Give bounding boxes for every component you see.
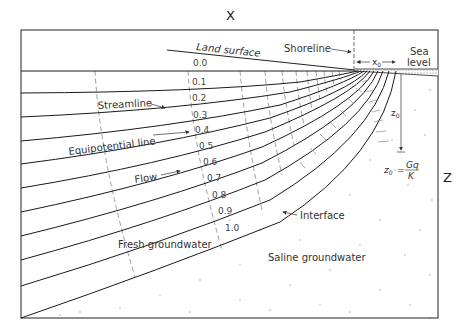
saltwater-interface-diagram: X Z [0, 0, 465, 334]
axis-z-label: Z [443, 170, 452, 185]
stream-value: 0.9 [218, 206, 233, 216]
stream-value: 1.0 [225, 223, 240, 233]
shoreline-arrow [331, 49, 351, 52]
stream-value: 0.4 [195, 125, 210, 135]
streamline-arrow [151, 104, 165, 108]
diagram-frame [21, 30, 438, 318]
interface-arrow [283, 212, 297, 215]
flow-label: Flow [134, 171, 158, 185]
svg-text:Gq: Gq [406, 160, 419, 170]
stream-value: 0.0 [193, 58, 208, 68]
svg-text:z0: z0 [383, 165, 393, 176]
stream-value: 0.6 [203, 157, 218, 167]
level-label: level [407, 57, 431, 68]
shoreline-label: Shoreline [284, 43, 331, 54]
z0-formula: z0 = Gq K [383, 160, 419, 181]
interface-curve [21, 71, 396, 318]
axis-x-label: X [226, 8, 235, 23]
saline-groundwater-label: Saline groundwater [268, 252, 366, 263]
streamlines [21, 71, 396, 318]
stream-value: 0.8 [212, 190, 227, 200]
sea-label: Sea [410, 46, 429, 57]
streamline-values: 0.0 0.1 0.2 0.3 0.4 0.5 0.6 0.7 0.8 0.9 … [192, 58, 240, 233]
stream-value: 0.1 [192, 77, 206, 87]
z0-label: z0 [391, 108, 400, 119]
equipotential-line-label: Equipotential line [68, 135, 156, 157]
interface-label: Interface [300, 210, 345, 221]
equipotential-arrow [153, 132, 189, 135]
x0-label: x0 [372, 57, 381, 68]
svg-text:K: K [408, 171, 415, 181]
fresh-groundwater-label: Fresh groundwater [118, 239, 213, 250]
stream-value: 0.7 [207, 173, 221, 183]
stream-value: 0.3 [193, 110, 207, 120]
stream-value: 0.5 [199, 141, 213, 151]
svg-text:=: = [397, 165, 405, 175]
stream-value: 0.2 [192, 93, 206, 103]
